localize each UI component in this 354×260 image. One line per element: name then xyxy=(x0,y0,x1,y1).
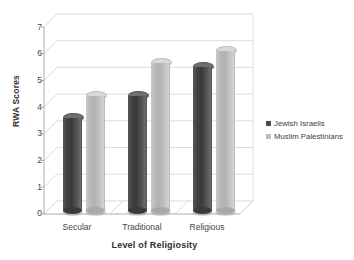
bar-foot xyxy=(216,207,235,214)
depth-line-4 xyxy=(44,94,57,107)
depth-line-7 xyxy=(44,14,57,27)
legend-label: Jewish Israelis xyxy=(274,119,325,128)
y-tick-label-1: 1 xyxy=(28,183,42,192)
depth-line-6 xyxy=(44,41,57,54)
bar-secular-jewish-israelis xyxy=(63,113,82,215)
depth-line-5 xyxy=(44,67,57,80)
y-axis-title: RWA Scores xyxy=(11,66,21,136)
bar-foot xyxy=(63,207,82,214)
bar-body xyxy=(193,67,212,211)
y-tick-label-0: 0 xyxy=(28,209,42,218)
bar-foot xyxy=(128,207,147,214)
depth-line-0 xyxy=(44,201,57,214)
y-tick-label-5: 5 xyxy=(28,76,42,85)
y-tick-label-3: 3 xyxy=(28,129,42,138)
bar-body xyxy=(216,51,235,211)
legend-item-jewish-israelis: Jewish Israelis xyxy=(266,117,343,130)
x-tick-label-secular: Secular xyxy=(45,222,109,232)
x-tick-label-traditional: Traditional xyxy=(110,222,174,232)
depth-line-1 xyxy=(44,174,57,187)
y-tick-label-7: 7 xyxy=(28,23,42,32)
y-tick-label-4: 4 xyxy=(28,103,42,112)
bar-secular-muslim-palestinians xyxy=(86,91,105,214)
bar-foot xyxy=(151,207,170,214)
bar-body xyxy=(128,96,147,211)
depth-line-2 xyxy=(44,148,57,161)
floor-right-edge xyxy=(240,201,253,214)
depth-line-3 xyxy=(44,121,57,134)
legend-item-muslim-palestinians: Muslim Palestinians xyxy=(266,130,343,143)
legend-label: Muslim Palestinians xyxy=(274,132,343,141)
bar-body xyxy=(86,96,105,211)
chart-container: RWA Scores 7 6 5 4 3 2 1 0 xyxy=(0,0,354,260)
bar-foot xyxy=(193,207,212,214)
bar-foot xyxy=(86,207,105,214)
x-tick-label-religious: Religious xyxy=(175,222,239,232)
x-axis-title: Level of Religiosity xyxy=(47,240,262,250)
bar-body xyxy=(63,118,82,212)
bar-traditional-jewish-israelis xyxy=(128,91,147,214)
y-tick-label-6: 6 xyxy=(28,49,42,58)
legend-swatch-icon xyxy=(266,121,271,126)
bar-religious-jewish-israelis xyxy=(193,62,212,214)
bar-religious-muslim-palestinians xyxy=(216,46,235,214)
y-tick-label-2: 2 xyxy=(28,156,42,165)
chart-legend: Jewish Israelis Muslim Palestinians xyxy=(266,117,343,143)
bar-traditional-muslim-palestinians xyxy=(151,58,170,214)
bar-body xyxy=(151,63,170,211)
legend-swatch-icon xyxy=(266,134,271,139)
